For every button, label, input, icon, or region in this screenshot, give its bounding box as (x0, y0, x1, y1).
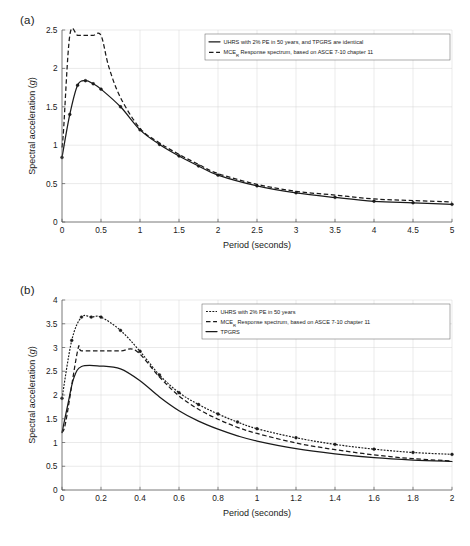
data-point (178, 155, 181, 158)
x-tick-label: 5 (450, 225, 455, 235)
x-tick-label: 1.8 (407, 493, 419, 503)
x-tick-label: 0.6 (173, 493, 185, 503)
data-point (256, 427, 259, 430)
chart-b-plot-area: 00.20.40.60.811.21.41.61.8200.511.522.53… (0, 288, 470, 546)
data-point (80, 316, 83, 319)
data-point (119, 105, 122, 108)
y-tick-label: 1 (53, 140, 58, 150)
legend-label-0: UHRS with 2% PE in 50 years (221, 309, 296, 315)
data-point (373, 200, 376, 203)
x-tick-label: 0.2 (95, 493, 107, 503)
x-tick-label: 3.5 (329, 225, 341, 235)
x-tick-label: 3 (294, 225, 299, 235)
data-point (451, 203, 454, 206)
svg-text:Spectral acceleration (g): Spectral acceleration (g) (27, 346, 37, 444)
x-axis-title: Period (seconds) (223, 508, 291, 518)
data-point (70, 339, 73, 342)
data-point (217, 413, 220, 416)
x-tick-label: 1.6 (368, 493, 380, 503)
x-tick-label: 0.5 (95, 225, 107, 235)
y-axis-title: Spectral acceleration (g) (27, 346, 37, 444)
y-tick-label: 0.5 (46, 179, 58, 189)
y-tick-label: 1 (53, 438, 58, 448)
x-tick-label: 4 (372, 225, 377, 235)
legend-label-2: TPGRS (221, 329, 241, 335)
x-tick-label: 1.4 (329, 493, 341, 503)
y-tick-label: 0 (53, 485, 58, 495)
y-tick-label: 4 (53, 295, 58, 305)
chart-a-plot-area: 00.511.522.533.544.5500.511.522.5Period … (0, 18, 470, 274)
data-point (68, 113, 71, 116)
y-tick-label: 0 (53, 217, 58, 227)
y-tick-label: 2.5 (46, 25, 58, 35)
x-tick-label: 2 (450, 493, 455, 503)
y-tick-label: 2 (53, 63, 58, 73)
figure-panel-b: (b) 00.20.40.60.811.21.41.61.8200.511.52… (0, 274, 470, 546)
data-point (100, 316, 103, 319)
data-point (92, 82, 95, 85)
x-tick-label: 0.8 (212, 493, 224, 503)
data-point (100, 88, 103, 91)
x-tick-label: 1 (138, 225, 143, 235)
y-tick-label: 2 (53, 390, 58, 400)
data-point (178, 391, 181, 394)
data-point (76, 84, 79, 87)
x-tick-label: 0 (60, 493, 65, 503)
data-point (334, 443, 337, 446)
legend: UHRS with 2% PE in 50 years, and TPGRS a… (205, 34, 450, 60)
svg-text:Spectral acceleration (g): Spectral acceleration (g) (27, 77, 37, 175)
data-point (197, 164, 200, 167)
x-tick-label: 4.5 (407, 225, 419, 235)
data-point (373, 448, 376, 451)
y-tick-label: 1.5 (46, 414, 58, 424)
data-point (119, 329, 122, 332)
y-tick-label: 0.5 (46, 461, 58, 471)
y-tick-label: 3.5 (46, 319, 58, 329)
x-tick-label: 0 (60, 225, 65, 235)
panel-b-svg: 00.20.40.60.811.21.41.61.8200.511.522.53… (0, 288, 470, 546)
panel-a-svg: 00.511.522.533.544.5500.511.522.5Period … (0, 18, 470, 274)
x-tick-label: 1.2 (290, 493, 302, 503)
y-tick-label: 2.5 (46, 366, 58, 376)
y-axis-title: Spectral acceleration (g) (27, 77, 37, 175)
legend: UHRS with 2% PE in 50 yearsMCER Response… (202, 304, 450, 339)
data-point (139, 350, 142, 353)
x-tick-label: 2 (216, 225, 221, 235)
data-point (217, 174, 220, 177)
data-point (412, 451, 415, 454)
data-point (90, 316, 93, 319)
legend-label-0: UHRS with 2% PE in 50 years, and TPGRS a… (224, 39, 364, 45)
data-point (451, 453, 454, 456)
x-axis-title: Period (seconds) (223, 240, 291, 250)
y-tick-label: 3 (53, 343, 58, 353)
data-point (412, 201, 415, 204)
x-tick-label: 0.4 (134, 493, 146, 503)
figure-panel-a: (a) 00.511.522.533.544.5500.511.522.5Per… (0, 0, 470, 274)
data-point (84, 79, 87, 82)
data-point (334, 196, 337, 199)
x-tick-label: 2.5 (251, 225, 263, 235)
x-tick-label: 1.5 (173, 225, 185, 235)
data-point (295, 436, 298, 439)
data-point (197, 403, 200, 406)
data-point (236, 421, 239, 424)
y-tick-label: 1.5 (46, 102, 58, 112)
x-tick-label: 1 (255, 493, 260, 503)
